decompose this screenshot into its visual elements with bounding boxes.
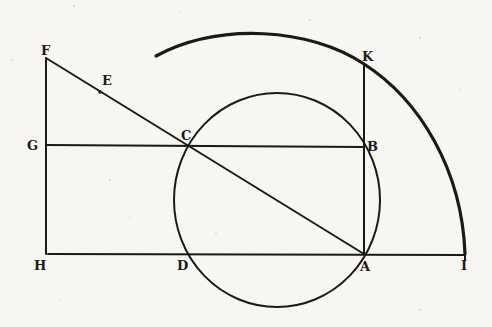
point-e: [98, 90, 102, 94]
label-g: G: [27, 138, 38, 153]
label-b: B: [367, 139, 378, 154]
label-h: H: [34, 258, 46, 273]
label-c: C: [181, 128, 191, 143]
paper-texture: [11, 5, 460, 310]
label-i: I: [461, 258, 467, 273]
line-fa: [46, 58, 364, 254]
line-gb: [46, 145, 364, 147]
label-k: K: [362, 49, 374, 64]
geometry-figure: F E G C K B H D A I: [0, 0, 492, 327]
label-a: A: [359, 259, 371, 274]
label-e: E: [102, 73, 112, 88]
label-f: F: [41, 43, 51, 58]
line-hi: [48, 254, 465, 255]
label-d: D: [177, 258, 188, 273]
